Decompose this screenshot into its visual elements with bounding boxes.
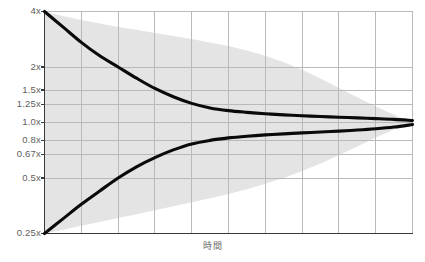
y-tick-label: 1.0x — [22, 117, 41, 127]
y-tick-label: 0.8x — [22, 135, 41, 145]
convergence-chart: 4x2x1.5x1.25x1.0x0.8x0.67x0.5x0.25x 時間 — [0, 0, 425, 262]
y-tick-label: 1.25x — [17, 99, 41, 109]
y-tick-label: 0.67x — [17, 149, 41, 159]
y-axis-tick-labels: 4x2x1.5x1.25x1.0x0.8x0.67x0.5x0.25x — [0, 0, 41, 262]
y-tick-label: 4x — [31, 6, 41, 16]
y-tick-label: 0.5x — [22, 173, 41, 183]
chart-canvas — [0, 0, 425, 262]
y-tick-label: 0.25x — [17, 228, 41, 238]
x-axis-label: 時間 — [0, 239, 425, 252]
y-tick-label: 1.5x — [22, 85, 41, 95]
y-tick-label: 2x — [31, 62, 41, 72]
